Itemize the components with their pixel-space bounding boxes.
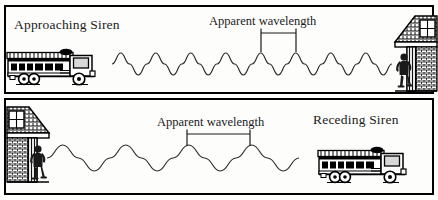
apparent-wavelength-label-top: Apparent wavelength <box>209 14 316 29</box>
approaching-siren-label: Approaching Siren <box>14 17 120 33</box>
doppler-effect-figure: Approaching Siren Apparent wavelength Ap… <box>0 0 438 200</box>
receding-siren-label: Receding Siren <box>313 112 399 128</box>
apparent-wavelength-label-bottom: Apparent wavelength <box>157 115 264 130</box>
